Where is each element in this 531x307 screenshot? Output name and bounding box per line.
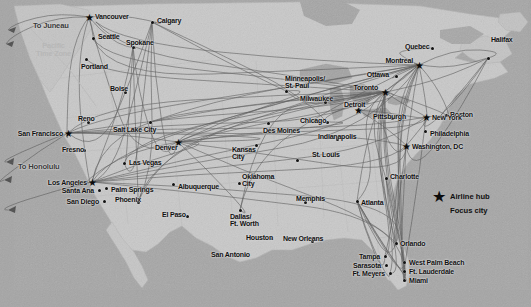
city-label: Detroit — [344, 101, 365, 108]
map-legend: ★ Airline hub Focus city — [432, 189, 527, 217]
city-label: Sarasota — [353, 262, 381, 269]
city-label: Milwaukee — [300, 95, 333, 102]
city-label: Chicago — [300, 117, 326, 124]
city-label: Kansas City — [232, 146, 256, 160]
annotation-pacific-time-zone: Pacific Time Zone — [36, 42, 71, 57]
city-label: San Francisco — [18, 130, 63, 137]
city-label: Toronto — [353, 84, 378, 91]
focus-city-marker — [384, 255, 387, 258]
focus-city-marker — [98, 189, 101, 192]
route-map-figure: ★★★★★★★★★ VancouverCalgarySeattleSpokane… — [0, 0, 531, 307]
city-label: Minneapolis/ St. Paul — [285, 75, 325, 89]
focus-city-marker — [172, 183, 175, 186]
city-label: Las Vegas — [129, 159, 161, 166]
city-label: Albuquerque — [178, 183, 219, 190]
city-label: Vancouver — [95, 13, 129, 20]
focus-city-marker — [487, 57, 490, 60]
city-label: New Orleans — [283, 235, 323, 242]
city-label: West Palm Beach — [409, 259, 464, 266]
city-label: Atlanta — [361, 199, 383, 206]
airline-hub-marker: ★ — [402, 142, 411, 151]
focus-city-marker — [403, 270, 406, 273]
city-label: New York — [432, 114, 462, 121]
city-label: Ft. Lauderdale — [409, 268, 454, 275]
focus-city-marker — [385, 264, 388, 267]
focus-city-marker — [267, 122, 270, 125]
focus-city-marker — [149, 121, 152, 124]
star-icon: ★ — [432, 187, 443, 206]
city-label: Philadelphia — [430, 130, 469, 137]
city-label: Oklahoma City — [242, 173, 274, 187]
focus-city-marker — [296, 159, 299, 162]
focus-city-marker — [105, 187, 108, 190]
city-label: Seattle — [98, 33, 120, 40]
city-label: Portland — [81, 63, 108, 70]
city-label: Charlotte — [390, 173, 419, 180]
city-label: Spokane — [126, 39, 154, 46]
focus-city-marker — [92, 37, 95, 40]
focus-city-marker — [356, 200, 359, 203]
city-label: Palm Springs — [111, 186, 153, 193]
airline-hub-marker: ★ — [85, 13, 94, 22]
focus-city-marker — [385, 177, 388, 180]
annotation-to-honolulu: To Honolulu — [18, 163, 60, 171]
legend-label-focus-city: Focus city — [450, 206, 488, 215]
focus-city-marker — [403, 261, 406, 264]
city-label: Indianapolis — [318, 133, 356, 140]
city-label: Miami — [409, 277, 428, 284]
city-label: Dallas/ Ft. Worth — [230, 213, 259, 227]
city-label: Boise — [110, 85, 128, 92]
city-label: Pittsburgh — [373, 113, 406, 120]
city-label: Santa Ana — [62, 187, 94, 194]
focus-city-marker — [395, 242, 398, 245]
airline-hub-marker: ★ — [415, 61, 424, 70]
city-label: Montreal — [385, 57, 413, 64]
city-label: Quebec — [405, 43, 429, 50]
city-label: Orlando — [400, 240, 425, 247]
city-label: Des Moines — [263, 127, 300, 134]
legend-label-airline-hub: Airline hub — [450, 192, 490, 201]
city-label: Denver — [155, 144, 178, 151]
city-label: Fresno — [62, 146, 84, 153]
focus-city-marker — [151, 21, 154, 24]
city-label: Houston — [246, 234, 273, 241]
city-label: Ottawa — [367, 71, 389, 78]
city-label: Los Angeles — [48, 179, 87, 186]
city-label: St. Louis — [312, 151, 340, 158]
city-label: Reno — [78, 115, 95, 122]
city-label: Calgary — [157, 17, 181, 24]
legend-item-airline-hub: ★ Airline hub — [432, 189, 527, 203]
focus-city-marker — [123, 162, 126, 165]
airline-hub-marker: ★ — [64, 129, 73, 138]
annotation-to-juneau: To Juneau — [33, 22, 69, 30]
focus-city-marker — [403, 279, 406, 282]
city-label: Phoenix — [115, 196, 141, 203]
city-label: El Paso — [162, 211, 186, 218]
focus-city-marker — [431, 47, 434, 50]
airline-hub-marker: ★ — [422, 113, 431, 122]
city-label: Salt Lake City — [113, 126, 156, 133]
city-label: Ft. Meyers — [352, 270, 385, 277]
focus-city-marker — [285, 90, 288, 93]
focus-city-marker — [85, 58, 88, 61]
focus-city-marker — [389, 272, 392, 275]
focus-city-marker — [395, 75, 398, 78]
focus-city-marker — [424, 130, 427, 133]
legend-item-focus-city: Focus city — [432, 203, 527, 217]
airline-hub-marker: ★ — [381, 88, 390, 97]
city-label: San Diego — [67, 198, 99, 205]
city-label: Tampa — [359, 253, 380, 260]
focus-city-marker — [103, 200, 106, 203]
focus-city-marker — [238, 182, 241, 185]
city-label: San Antonio — [211, 251, 250, 258]
city-label: Memphis — [296, 195, 325, 202]
focus-city-marker — [239, 209, 242, 212]
city-label: Washington, DC — [412, 143, 463, 150]
airline-hub-marker: ★ — [88, 178, 97, 187]
city-label: Halifax — [491, 36, 513, 43]
